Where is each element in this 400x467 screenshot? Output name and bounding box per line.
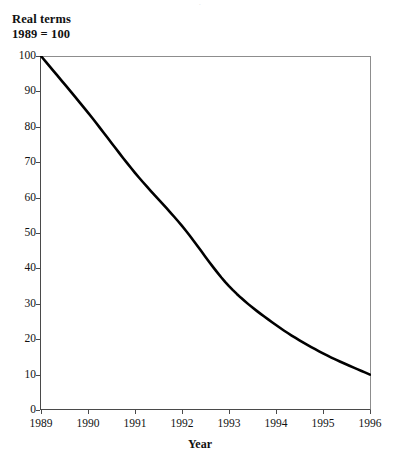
x-tick-label: 1989	[18, 417, 64, 429]
x-tick-label: 1996	[347, 417, 393, 429]
y-tick-mark	[36, 91, 40, 92]
x-tick-mark	[135, 410, 136, 414]
x-tick-label: 1993	[206, 417, 252, 429]
x-tick-mark	[370, 410, 371, 414]
y-tick-mark	[36, 410, 40, 411]
y-tick-label: 0	[2, 404, 36, 416]
y-tick-mark	[36, 375, 40, 376]
x-tick-mark	[41, 410, 42, 414]
y-tick-mark	[36, 162, 40, 163]
x-tick-label: 1990	[65, 417, 111, 429]
x-tick-label: 1995	[300, 417, 346, 429]
cropped-top-text: ·	[0, 0, 400, 9]
x-tick-label: 1992	[159, 417, 205, 429]
y-tick-mark	[36, 268, 40, 269]
x-tick-mark	[88, 410, 89, 414]
x-tick-mark	[276, 410, 277, 414]
y-axis: 0102030405060708090100	[0, 0, 36, 467]
y-tick-label: 100	[2, 50, 36, 62]
x-tick-mark	[182, 410, 183, 414]
y-tick-label: 80	[2, 121, 36, 133]
x-axis-title: Year	[0, 437, 400, 452]
y-tick-label: 90	[2, 86, 36, 98]
chart-line-plot	[40, 56, 371, 410]
x-tick-label: 1991	[112, 417, 158, 429]
y-tick-mark	[36, 304, 40, 305]
data-series-line	[41, 56, 370, 375]
y-tick-label: 50	[2, 227, 36, 239]
y-tick-label: 70	[2, 156, 36, 168]
y-tick-mark	[36, 127, 40, 128]
y-tick-mark	[36, 198, 40, 199]
y-tick-label: 40	[2, 263, 36, 275]
y-tick-mark	[36, 339, 40, 340]
y-tick-label: 30	[2, 298, 36, 310]
y-tick-mark	[36, 233, 40, 234]
y-tick-label: 10	[2, 369, 36, 381]
y-tick-mark	[36, 56, 40, 57]
x-tick-mark	[323, 410, 324, 414]
y-tick-label: 60	[2, 192, 36, 204]
y-tick-label: 20	[2, 333, 36, 345]
x-tick-label: 1994	[253, 417, 299, 429]
x-tick-mark	[229, 410, 230, 414]
